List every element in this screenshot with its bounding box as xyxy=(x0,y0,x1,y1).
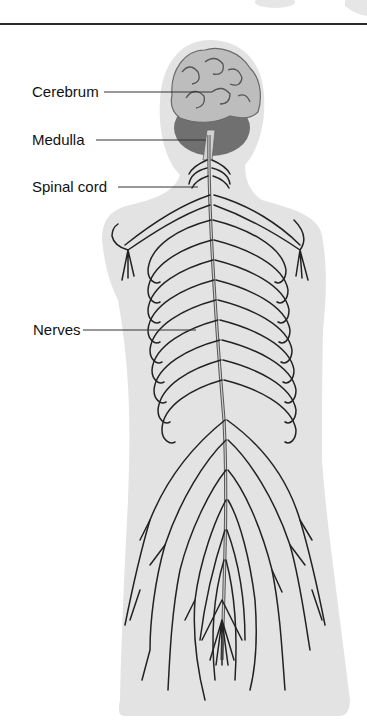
partial-top-image xyxy=(255,0,367,16)
label-medulla: Medulla xyxy=(32,131,85,148)
label-cerebrum: Cerebrum xyxy=(32,83,99,100)
label-spinal-cord: Spinal cord xyxy=(32,178,107,195)
label-nerves: Nerves xyxy=(33,321,81,338)
nervous-system-illustration xyxy=(0,0,367,724)
